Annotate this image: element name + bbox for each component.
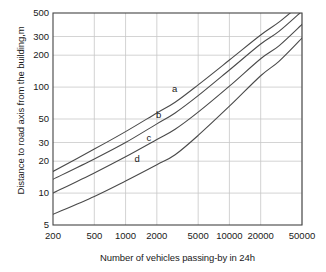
gridlines-group: [53, 13, 302, 225]
curve-label-b: b: [156, 110, 161, 120]
x-tick-label: 50000: [282, 231, 322, 241]
x-tick-label: 20000: [241, 231, 281, 241]
x-tick-label: 200: [33, 231, 73, 241]
x-tick-label: 2000: [137, 231, 177, 241]
curve-d: [53, 38, 302, 214]
curve-label-c: c: [147, 133, 152, 143]
curve-label-a: a: [172, 84, 177, 94]
y-axis-title: Distance to road axis from the building,…: [15, 6, 26, 216]
curve-label-d: d: [134, 154, 139, 164]
y-tick-label: 5: [19, 220, 49, 230]
curves-group: [53, 3, 302, 214]
chart-figure: 510203050100200300500 200500100020005000…: [0, 0, 326, 272]
curve-c: [53, 24, 302, 193]
x-axis-title: Number of vehicles passing-by in 24h: [53, 252, 302, 263]
